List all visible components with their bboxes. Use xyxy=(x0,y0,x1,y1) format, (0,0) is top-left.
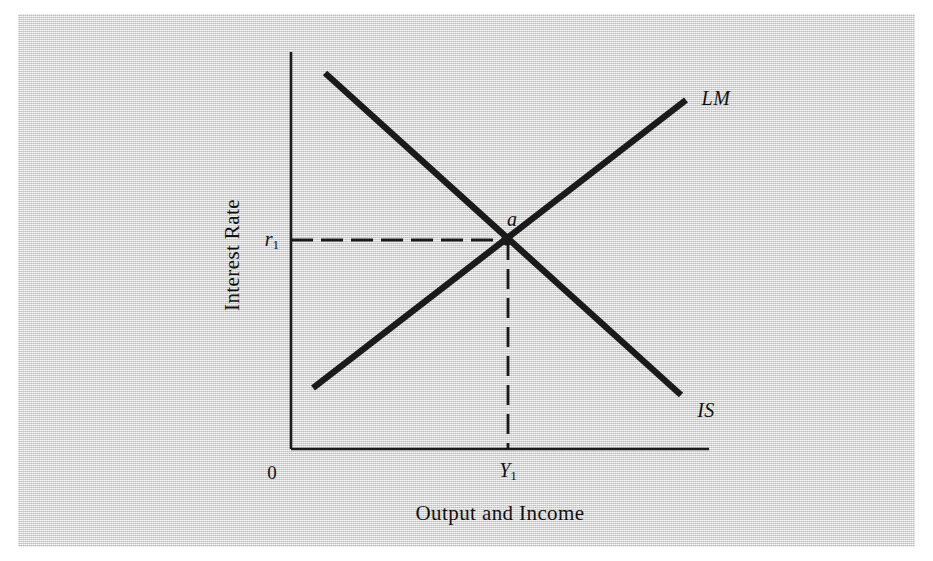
y-tick-label-r1: r1 xyxy=(265,229,279,252)
y-axis-title: Interest Rate xyxy=(222,199,243,311)
figure-background-panel xyxy=(18,14,915,547)
origin-label: 0 xyxy=(267,463,277,482)
x-tick-label-subscript: 1 xyxy=(510,468,517,483)
x-tick-label-base: Y xyxy=(499,459,510,481)
x-axis-title: Output and Income xyxy=(416,503,585,524)
y-tick-label-base: r xyxy=(265,228,273,250)
x-tick-label-y1: Y1 xyxy=(499,460,517,483)
equilibrium-point-label: a xyxy=(507,209,517,229)
is-curve-label: IS xyxy=(697,400,715,420)
figure-root: Interest Rate Output and Income 0 r1 Y1 … xyxy=(0,0,933,561)
y-tick-label-subscript: 1 xyxy=(273,237,280,252)
lm-curve-label: LM xyxy=(702,88,731,108)
